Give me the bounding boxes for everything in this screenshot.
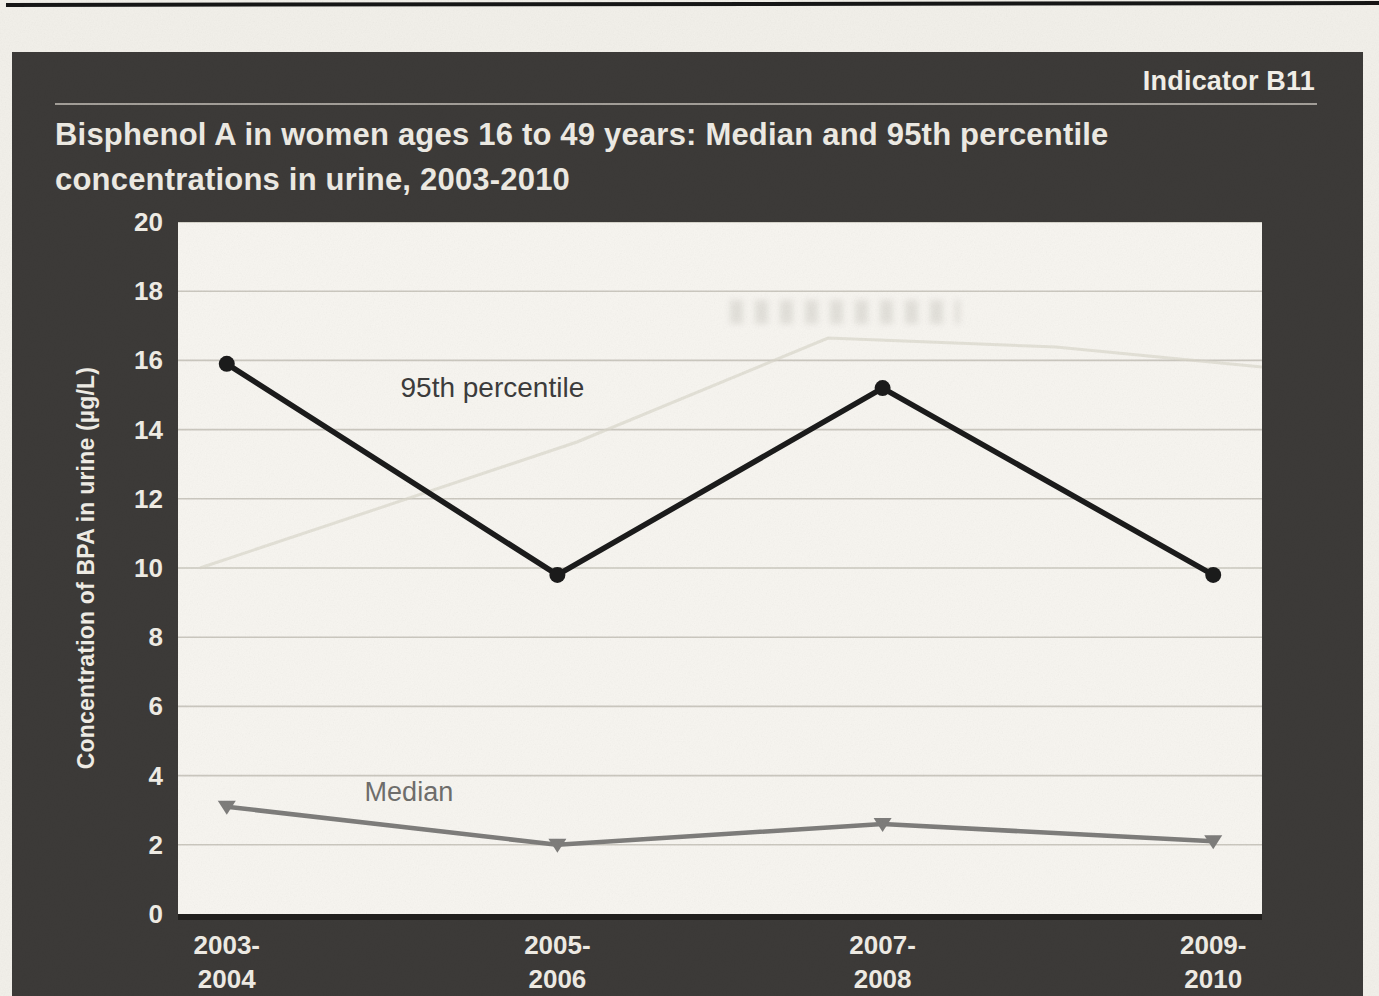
data-point-marker-circle [1205,567,1221,583]
y-tick-label: 4 [102,759,163,793]
x-tick-label: 2009-2010 [1143,928,1283,996]
y-tick-label: 10 [102,551,163,585]
data-point-marker-circle [875,380,891,396]
y-tick-label: 18 [102,274,163,308]
y-tick-label: 20 [102,205,163,239]
page-top-rule [6,1,1379,7]
series-line-95th-percentile [227,364,1213,575]
series-annotation: Median [365,777,454,807]
indicator-label: Indicator B11 [1143,66,1315,97]
y-tick-label: 14 [102,413,163,447]
series-annotation: 95th percentile [401,372,585,403]
plot-area: 95th percentileMedian [178,222,1262,920]
y-axis-title: Concentration of BPA in urine (µg/L) [73,222,103,914]
x-tick-label: 2003-2004 [157,928,297,996]
chart-title-line1: Bisphenol A in women ages 16 to 49 years… [55,117,1109,152]
chart-title-line2: concentrations in urine, 2003-2010 [55,162,570,197]
x-axis-labels: 2003-20042005-20062007-20082009-2010 [178,928,1262,996]
y-tick-label: 0 [102,897,163,931]
page: { "page": { "indicator_label": "Indicato… [0,0,1379,996]
y-tick-label: 8 [102,620,163,654]
y-axis-ticks: 02468101214161820 [102,222,163,914]
y-tick-label: 6 [102,689,163,723]
chart-svg: 95th percentileMedian [178,222,1262,914]
indicator-panel: Indicator B11 Bisphenol A in women ages … [12,52,1363,996]
data-point-marker-circle [219,356,235,372]
chart-title: Bisphenol A in women ages 16 to 49 years… [55,112,1295,202]
series-line-median [227,807,1213,845]
x-tick-label: 2005-2006 [487,928,627,996]
x-tick-label: 2007-2008 [813,928,953,996]
y-tick-label: 2 [102,828,163,862]
header-rule [55,103,1317,105]
data-point-marker-circle [549,567,565,583]
y-tick-label: 16 [102,343,163,377]
y-tick-label: 12 [102,482,163,516]
scan-bleed-line [200,338,1262,568]
